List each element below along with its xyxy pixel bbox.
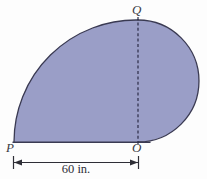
vertex-label-q: Q bbox=[132, 3, 141, 16]
vertex-label-p: P bbox=[6, 141, 14, 154]
vertex-label-o: O bbox=[132, 141, 141, 154]
geometry-figure: Q P O 60 in. bbox=[0, 0, 207, 179]
figure-canvas bbox=[0, 0, 207, 179]
composite-region-shape bbox=[14, 20, 199, 142]
dimension-label: 60 in. bbox=[0, 163, 152, 176]
